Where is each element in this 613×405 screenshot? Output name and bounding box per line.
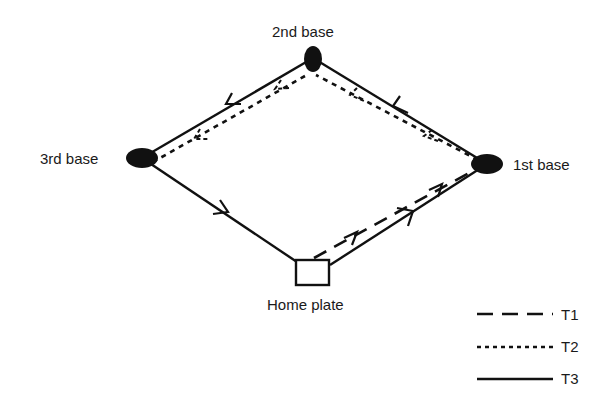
second-base-marker bbox=[304, 46, 322, 72]
second-base-label: 2nd base bbox=[272, 24, 334, 39]
t1-arrow-icons bbox=[344, 184, 442, 245]
first-base-marker bbox=[471, 154, 503, 174]
home-plate-marker bbox=[296, 260, 329, 285]
legend-label-t2: T2 bbox=[561, 339, 579, 354]
path-t1-dashed bbox=[314, 168, 478, 258]
third-base-label: 3rd base bbox=[40, 151, 98, 166]
legend-item-t1: T1 bbox=[476, 306, 596, 326]
path-t3-solid bbox=[142, 58, 487, 265]
legend-item-t3: T3 bbox=[476, 370, 596, 390]
home-plate-label: Home plate bbox=[267, 297, 344, 312]
legend-label-t3: T3 bbox=[561, 371, 579, 386]
first-base-label: 1st base bbox=[513, 157, 570, 172]
path-t2-dotted bbox=[153, 75, 478, 162]
legend-item-t2: T2 bbox=[476, 338, 596, 358]
legend-label-t1: T1 bbox=[561, 307, 579, 322]
third-base-marker bbox=[126, 148, 158, 168]
t3-arrow-icons bbox=[213, 93, 413, 226]
